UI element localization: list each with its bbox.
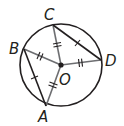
- label-C: C: [44, 6, 55, 24]
- label-A: A: [37, 108, 48, 126]
- label-D: D: [105, 52, 117, 70]
- label-O: O: [59, 71, 71, 89]
- radius-OD: [61, 60, 101, 65]
- center-point: [58, 62, 63, 67]
- label-B: B: [9, 40, 19, 58]
- circle-diagram: C B D O A: [0, 0, 124, 126]
- radius-OC: [53, 25, 61, 65]
